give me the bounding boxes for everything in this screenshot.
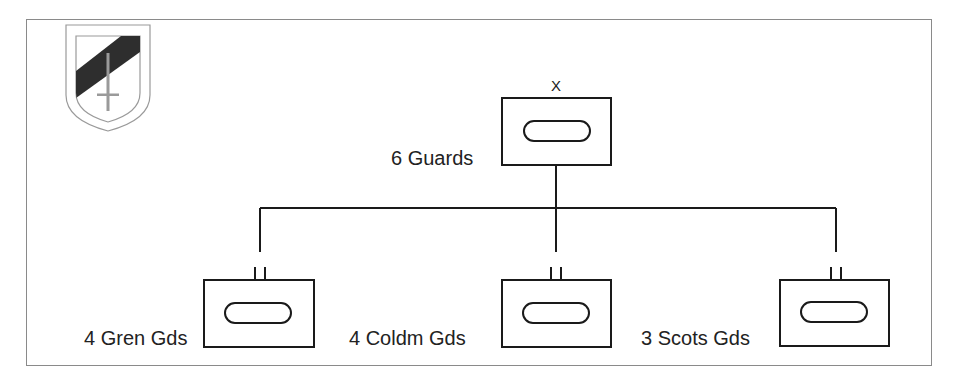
armour-oval-icon [523, 303, 589, 323]
armour-oval-icon [801, 302, 867, 322]
sub-unit-symbol-3 [780, 267, 889, 346]
shield-icon [66, 25, 150, 131]
sub-unit-label-3: 3 Scots Gds [641, 328, 750, 348]
connector-lines [260, 165, 836, 252]
sub-unit-label-1: 4 Gren Gds [84, 328, 187, 348]
sub-unit-symbol-1 [204, 267, 314, 347]
sub-unit-label-2: 4 Coldm Gds [349, 328, 466, 348]
armour-oval-icon [225, 303, 291, 323]
hq-unit-symbol [502, 98, 611, 165]
hq-echelon-marker: X [551, 78, 561, 93]
hq-label: 6 Guards [391, 148, 473, 168]
sub-unit-symbol-2 [502, 267, 611, 347]
armour-oval-icon [524, 121, 590, 141]
